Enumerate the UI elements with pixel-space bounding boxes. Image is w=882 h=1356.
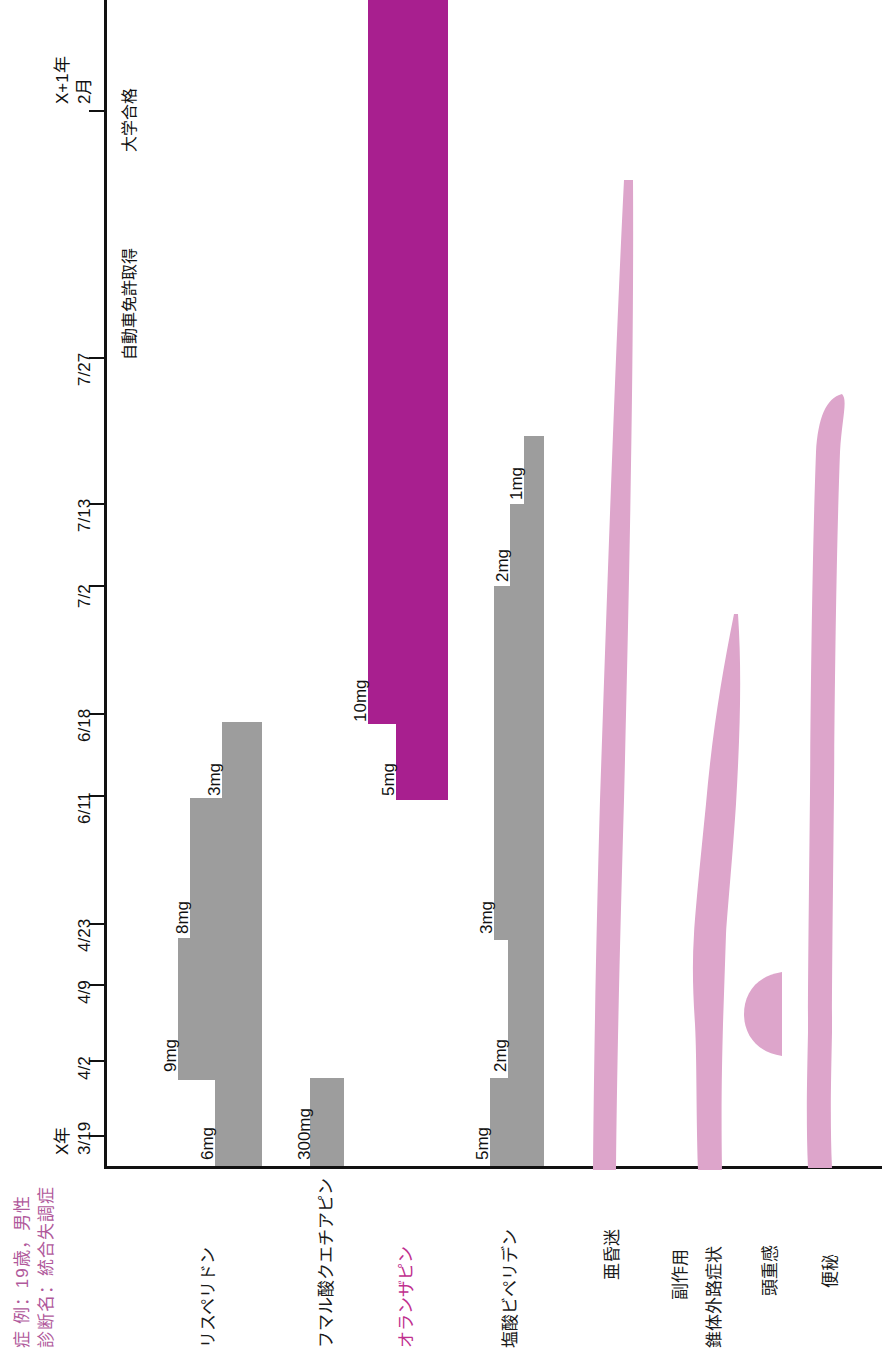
dose-label-risperidone-8mg: 8mg (174, 901, 191, 934)
time-axis-line (104, 0, 107, 1168)
dose-label-risperidone-6mg: 6mg (199, 1127, 216, 1160)
bar-risperidone-9mg (178, 938, 262, 1080)
bar-risperidone-6mg (215, 1078, 262, 1166)
event-label-drivers-license: 自動車免許取得 (122, 248, 138, 360)
dose-label-olanzapine-5mg: 5mg (380, 763, 397, 796)
dose-label-quetiapine-300mg: 300mg (296, 1108, 313, 1160)
band-head-heaviness (744, 972, 786, 1056)
bar-biperiden-1mg (524, 436, 544, 506)
row-label-olanzapine: オランザピン (398, 1246, 415, 1348)
bar-risperidone-3mg (222, 722, 262, 800)
row-label-extrapyramidal: 錐体外路症状 (706, 1246, 723, 1348)
dose-label-risperidone-9mg: 9mg (162, 1039, 179, 1072)
axis-tick-label-4: 6/11 (76, 792, 93, 824)
axis-year-start-label: X年 (54, 1127, 71, 1155)
group-label-side-effects: 副作用 (672, 1249, 689, 1300)
case-header-line1: 症 例：19歳，男性 (14, 1195, 31, 1348)
bar-olanzapine-5mg (396, 722, 448, 800)
bar-biperiden-2mg-first (508, 938, 544, 1080)
dose-label-biperiden-3mg: 3mg (478, 901, 495, 934)
axis-tick-label-7: 7/13 (76, 499, 93, 532)
band-stupor (586, 180, 646, 1170)
dose-label-biperiden-5mg: 5mg (474, 1127, 491, 1160)
bar-biperiden-2mg-second (510, 504, 544, 588)
axis-tick-label-1: 4/2 (76, 1056, 93, 1080)
axis-tick-label-8: 7/27 (76, 353, 93, 386)
axis-tick-label-2: 4/9 (76, 980, 93, 1004)
band-extrapyramidal-symptoms (692, 614, 744, 1170)
axis-year-end-label: X+1年 (54, 56, 71, 104)
dose-label-biperiden-2mg-first: 2mg (492, 1039, 509, 1072)
row-label-head-heaviness: 頭重感 (762, 1245, 779, 1296)
bar-risperidone-8mg (190, 798, 262, 940)
dose-label-olanzapine-10mg: 10mg (352, 679, 369, 722)
row-label-quetiapine: フマル酸クエチアピン (318, 1178, 335, 1348)
axis-tick-label-0: 3/19 (76, 1122, 93, 1155)
dose-label-risperidone-3mg: 3mg (206, 763, 223, 796)
case-header-line2: 診断名：統合失調症 (38, 1186, 55, 1348)
row-label-biperiden: 塩酸ビペリデン (502, 1229, 519, 1348)
category-baseline (104, 1166, 882, 1169)
bar-olanzapine-10mg (368, 0, 448, 724)
row-label-risperidone: リスペリドン (200, 1247, 217, 1348)
axis-year-end-month: 2月 (76, 78, 93, 104)
axis-tick-label-5: 6/18 (76, 709, 93, 742)
dose-label-biperiden-1mg: 1mg (508, 467, 525, 500)
bar-quetiapine-300mg (310, 1078, 344, 1166)
axis-tick (89, 110, 105, 112)
dose-label-biperiden-2mg-second: 2mg (494, 549, 511, 582)
bar-biperiden-3mg (494, 586, 544, 940)
row-label-stupor: 亜昏迷 (604, 1229, 621, 1280)
event-label-university-pass: 大学合格 (122, 88, 138, 152)
axis-tick-label-3: 4/23 (76, 919, 93, 952)
band-constipation (806, 392, 852, 1168)
bar-biperiden-5mg (490, 1078, 544, 1166)
row-label-constipation: 便秘 (822, 1254, 839, 1288)
axis-tick-label-6: 7/2 (76, 584, 93, 608)
